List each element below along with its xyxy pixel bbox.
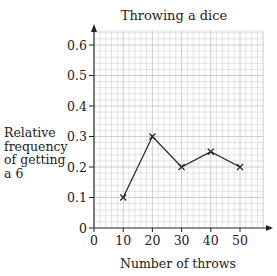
x-axis-label: Number of throws <box>120 256 236 271</box>
x-tick-label: 10 <box>115 233 131 248</box>
y-tick-label: 0.2 <box>67 160 87 175</box>
y-tick-label: 0.5 <box>67 68 87 83</box>
x-tick-label: 40 <box>203 233 219 248</box>
x-axis-arrow-icon <box>266 225 273 231</box>
y-axis-label-line: Relative <box>4 126 68 140</box>
y-axis-label: Relative frequency of getting a 6 <box>4 126 68 180</box>
y-tick-label: 0 <box>79 221 87 236</box>
y-axis-label-line: frequency <box>4 140 68 154</box>
x-tick-label: 20 <box>144 233 160 248</box>
x-tick-label: 0 <box>90 233 98 248</box>
y-axis-label-line: of getting <box>4 153 68 167</box>
y-axis-arrow-icon <box>91 24 97 32</box>
y-axis-label-line: a 6 <box>4 167 68 181</box>
y-tick-label: 0.6 <box>67 38 87 53</box>
grid-lines <box>94 31 263 228</box>
y-tick-label: 0.3 <box>67 129 87 144</box>
y-tick-label: 0.1 <box>67 190 87 205</box>
chart-title: Throwing a dice <box>121 8 228 23</box>
y-tick-label: 0.4 <box>67 99 87 114</box>
x-tick-label: 50 <box>232 233 248 248</box>
x-tick-label: 30 <box>174 233 190 248</box>
